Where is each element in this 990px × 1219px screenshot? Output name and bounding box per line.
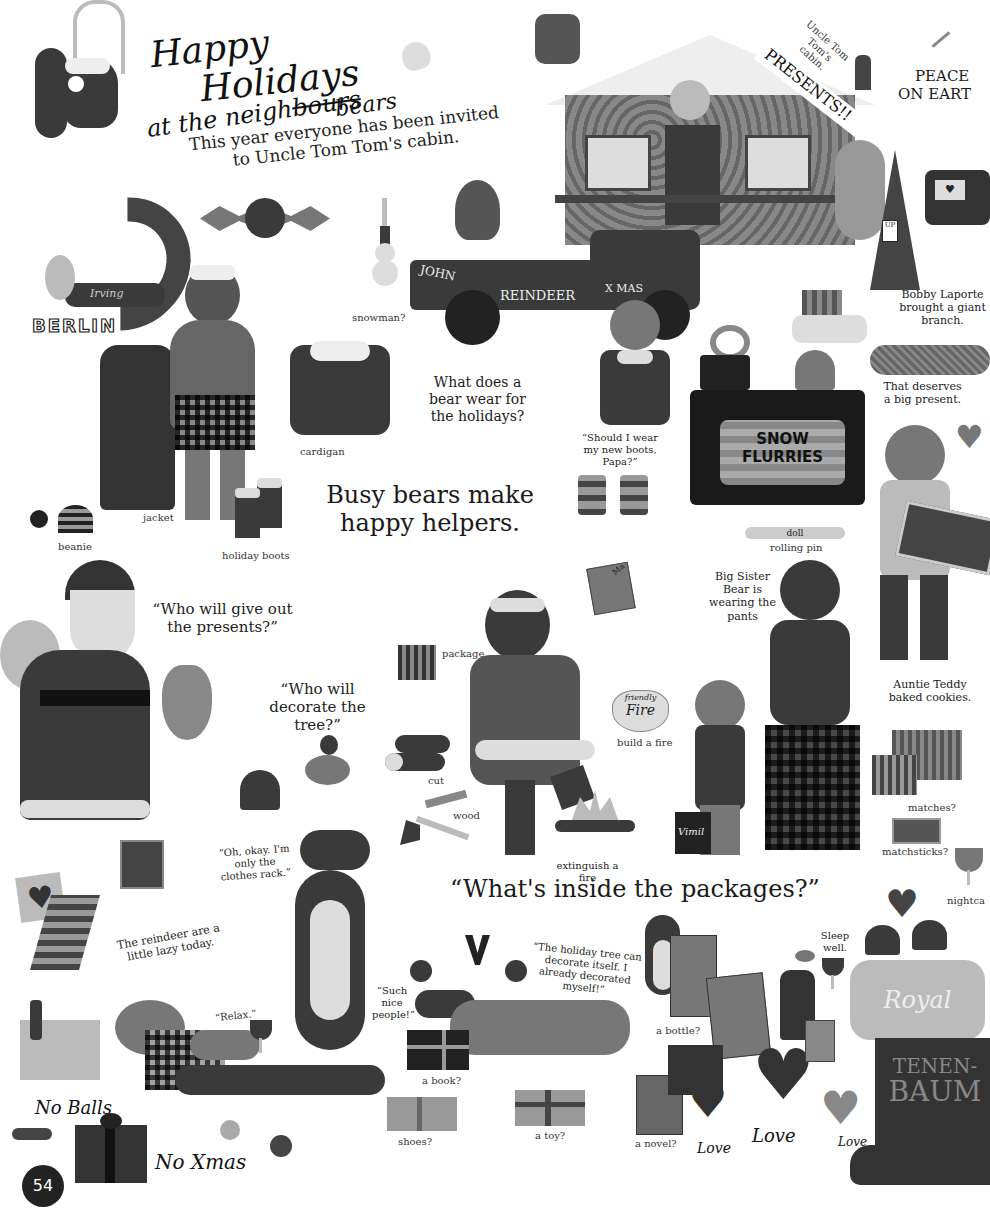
tree-tag: UP: [882, 220, 898, 242]
bird-on-bottle: [795, 950, 815, 962]
stove: SNOW FLURRIES: [690, 345, 865, 520]
auntie-teddy: [870, 425, 990, 665]
small-present: [805, 1020, 835, 1062]
a-novel-label: a novel?: [635, 1138, 677, 1150]
busy-bears-heading: Busy bears make happy helpers.: [320, 482, 540, 537]
santa-sack: [162, 665, 212, 740]
love-text-1: Love: [697, 1140, 731, 1156]
stacked-presents: [872, 730, 962, 800]
a-bottle-label: a bottle?: [656, 1025, 700, 1037]
bone-present: [870, 345, 990, 375]
heart-box: ♥: [688, 1080, 727, 1124]
rolling-pin: doll: [745, 527, 845, 539]
whats-inside-heading: “What's inside the packages?”: [450, 876, 820, 904]
dark-present: [75, 1125, 147, 1183]
peace-line1: PEACE: [915, 68, 969, 85]
moose-head-ornament: [35, 28, 115, 138]
cardigan-label: cardigan: [300, 446, 345, 458]
no-xmas-text: No Xmas: [155, 1150, 246, 1174]
dog-with-present: [792, 290, 872, 355]
ornament-ball: [270, 1135, 292, 1157]
bobby-laporte: Bobby Laporte brought a giant branch.: [895, 288, 990, 328]
number-two-figure: Irving: [30, 195, 170, 315]
who-decorates-tree: “Who will decorate the tree?”: [245, 680, 390, 734]
beanie-label: beanie: [58, 541, 92, 553]
holiday-boots: [235, 478, 295, 540]
matchbox: [892, 818, 941, 844]
campfire: [555, 790, 635, 835]
baum-text: BAUM: [885, 1077, 985, 1108]
heart-icon: ♥: [945, 183, 955, 196]
should-wear-boots: “Should I wear my new boots, Papa?”: [575, 432, 665, 468]
truck-text-xmas: X MAS: [605, 282, 643, 295]
irving-script: Irving: [90, 287, 123, 300]
friendly-fire-badge: friendly Fire: [612, 690, 669, 732]
auntie-teddy-label: Auntie Teddy baked cookies.: [880, 678, 980, 704]
deserves-present: That deserves a big present.: [880, 380, 965, 406]
rooster: [455, 180, 500, 240]
build-fire-label: build a fire: [617, 737, 672, 749]
vimil-bag: Vimil: [675, 812, 711, 854]
matches-label: matches?: [908, 802, 956, 814]
holly-face: [200, 198, 330, 243]
snowman-label: snowman?: [352, 312, 405, 324]
peace-line2: ON EART: [898, 86, 971, 103]
a-book-label: a book?: [422, 1075, 461, 1087]
logs: [385, 735, 455, 775]
lantern-icon: [855, 55, 871, 90]
elephant: [835, 140, 885, 240]
book-present: [407, 1030, 469, 1070]
who-gives-presents: “Who will give out the presents?”: [150, 600, 295, 636]
holiday-boots-label: holiday boots: [222, 550, 290, 562]
wine-glass-icon: [250, 1020, 272, 1058]
cut-label: cut: [428, 775, 444, 787]
toy-car-icon: [12, 1128, 52, 1140]
tenen-text: TENEN-: [885, 1055, 985, 1077]
berlin-label: BERLIN: [32, 315, 117, 336]
small-bear: [575, 300, 705, 430]
mail-van: ♥: [925, 170, 990, 225]
package-box: [398, 645, 436, 680]
wine-glass-icon: [822, 958, 844, 993]
nightcap-label: nightca: [947, 895, 985, 907]
reindeer-lazy-label: The reindeer are a little lazy today.: [111, 920, 229, 966]
a-toy-label: a toy?: [535, 1130, 565, 1142]
truck-text-reindeer: REINDEER: [500, 288, 575, 303]
snowman-candle: [370, 198, 400, 308]
penguin-with-present: [645, 915, 715, 1020]
hat-rack: [240, 735, 350, 815]
sled-bird-icon: [535, 14, 580, 64]
beanie: [30, 505, 95, 535]
heart-ornament: ♥: [885, 885, 919, 923]
clothes-rack-quote: “Oh, okay. I'm only the clothes rack.”: [214, 842, 296, 883]
matchsticks-label: matchsticks?: [882, 846, 948, 858]
shopping-box: [20, 1000, 105, 1080]
rolling-pin-label: rolling pin: [770, 542, 822, 554]
heart-icon: ♥: [955, 418, 984, 456]
sleep-well-label: Sleep well.: [815, 930, 855, 954]
new-boots: [578, 475, 653, 517]
royal-text: Royal: [883, 986, 951, 1014]
snow-flurries-line1: SNOW: [720, 430, 845, 448]
deer-trophy-icon: [670, 80, 710, 120]
page-number-badge: 54: [22, 1165, 64, 1207]
package-label: package: [442, 648, 484, 660]
present-small: [120, 840, 164, 889]
royal-tenenbaum-boot: Royal TENEN- BAUM: [850, 920, 990, 1219]
axe-icon: [400, 820, 470, 850]
shoes-present: [387, 1097, 457, 1131]
big-sister-bear: [760, 560, 870, 860]
love-text-2: Love: [752, 1125, 796, 1146]
ornament-ball: [220, 1120, 240, 1140]
toy-present: [515, 1090, 585, 1126]
snow-flurries-line2: FLURRIES: [720, 448, 845, 466]
no-balls-text: No Balls: [35, 1097, 112, 1118]
shoes-label: shoes?: [398, 1136, 432, 1148]
doll-label: doll: [787, 528, 804, 538]
what-bear-wears: What does a bear wear for the holidays?: [420, 374, 535, 424]
wine-glass-icon: [955, 848, 983, 888]
sprig-icon: [932, 31, 951, 47]
bird-icon: [398, 38, 434, 74]
such-nice-quote: “Such nice people!”: [372, 985, 412, 1021]
cardigan-on-hanger: [280, 335, 400, 440]
